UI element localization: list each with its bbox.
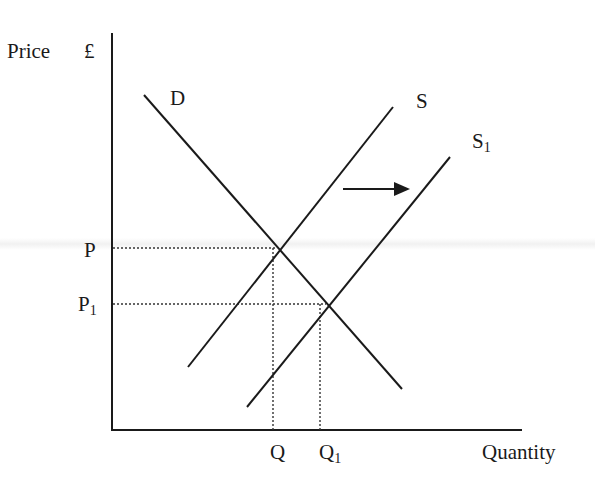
- demand-label: D: [170, 88, 185, 109]
- currency-label: £: [84, 41, 95, 62]
- price-p1-label-main: P: [78, 292, 90, 316]
- price-p-label: P: [84, 240, 96, 261]
- supply-curve: [188, 107, 393, 367]
- supply-curve-shifted: [247, 157, 450, 407]
- quantity-q-label: Q: [270, 442, 285, 463]
- quantity-q1-label-main: Q: [319, 440, 334, 464]
- x-axis-label: Quantity: [482, 442, 556, 463]
- price-p1-label-sub: 1: [90, 303, 97, 318]
- quantity-q1-label: Q1: [319, 442, 341, 466]
- supply-label: S: [416, 91, 428, 112]
- supply-shifted-label-main: S: [472, 129, 484, 153]
- quantity-q1-label-sub: 1: [334, 451, 341, 466]
- y-axis-label: Price: [7, 41, 50, 62]
- supply-shifted-label: S1: [472, 131, 491, 155]
- price-p1-label: P1: [78, 294, 97, 318]
- shift-arrow-head: [394, 182, 410, 196]
- supply-shifted-label-sub: 1: [484, 140, 491, 155]
